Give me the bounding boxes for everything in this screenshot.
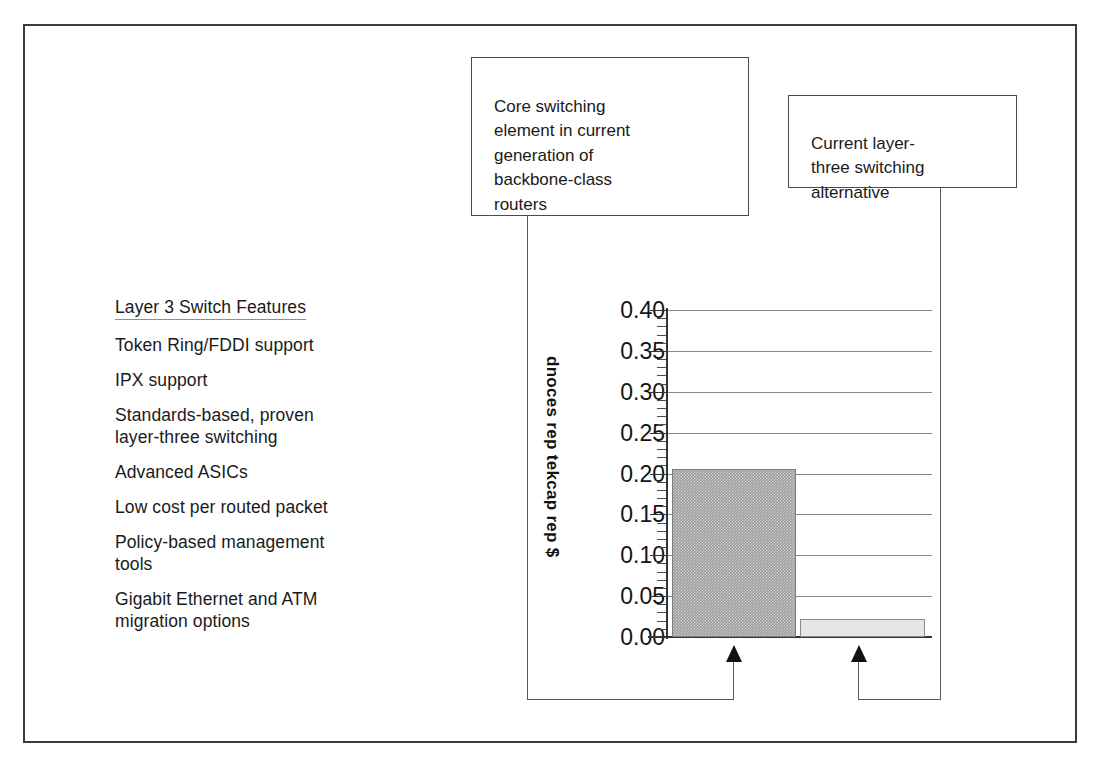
callout-core-text: Core switching element in current genera…	[494, 97, 630, 214]
list-item: IPX support	[115, 369, 425, 391]
leader-line-core-horizontal	[527, 699, 734, 700]
arrow-up-icon-core	[726, 645, 742, 662]
list-item: Gigabit Ethernet and ATM migration optio…	[115, 588, 425, 632]
list-item: Standards-based, proven layer-three swit…	[115, 404, 425, 448]
list-item: Low cost per routed packet	[115, 496, 425, 518]
chart-y-axis-title: dnoces rep tekcap rep $	[542, 356, 562, 606]
gridline	[667, 351, 932, 352]
bar-core-switching	[672, 469, 796, 637]
callout-box-core-switching: Core switching element in current genera…	[471, 57, 749, 216]
layer3-feature-list: Layer 3 Switch Features Token Ring/FDDI …	[115, 296, 425, 645]
arrow-up-icon-alt	[851, 645, 867, 662]
major-tick	[650, 310, 667, 311]
gridline	[667, 310, 932, 311]
list-item: Advanced ASICs	[115, 461, 425, 483]
slide-canvas: Core switching element in current genera…	[0, 0, 1100, 764]
major-tick	[650, 555, 667, 556]
list-item: Policy-based management tools	[115, 531, 425, 575]
list-item: Token Ring/FDDI support	[115, 334, 425, 356]
major-tick	[650, 514, 667, 515]
major-tick	[650, 433, 667, 434]
leader-line-core-vertical	[527, 216, 528, 700]
feature-list-heading: Layer 3 Switch Features	[115, 296, 306, 320]
chart-y-tick-labels: 0.400.350.300.250.200.150.100.050.00	[597, 300, 665, 650]
major-tick	[650, 392, 667, 393]
major-tick	[650, 351, 667, 352]
leader-line-alt-vertical	[940, 188, 941, 700]
chart-y-axis-line	[666, 308, 668, 639]
leader-line-alt-horizontal	[858, 699, 941, 700]
leader-line-alt-riser	[858, 661, 859, 700]
callout-box-current-alternative: Current layer- three switching alternati…	[788, 95, 1017, 188]
gridline	[667, 433, 932, 434]
major-tick	[650, 596, 667, 597]
gridline	[667, 392, 932, 393]
leader-line-core-riser	[733, 661, 734, 700]
major-tick	[650, 474, 667, 475]
bar-layer-three-alternative	[800, 619, 925, 637]
